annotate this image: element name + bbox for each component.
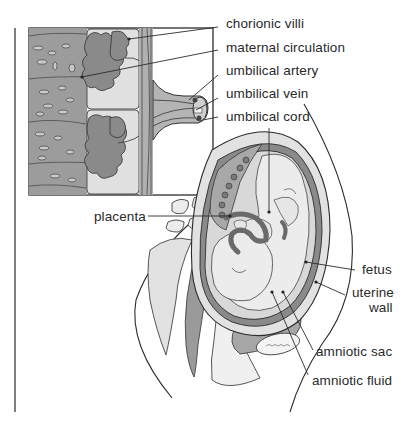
diagram-canvas: chorionic villi maternal circulation umb… (0, 0, 410, 425)
label-umbilical-cord: umbilical cord (226, 110, 310, 124)
label-chorionic-villi: chorionic villi (226, 17, 304, 31)
label-umbilical-vein: umbilical vein (226, 87, 308, 101)
label-uterine-wall-line2: wall (369, 301, 393, 315)
label-amniotic-fluid: amniotic fluid (312, 374, 392, 388)
label-amniotic-sac: amniotic sac (316, 345, 392, 359)
label-fetus: fetus (362, 263, 392, 277)
label-uterine-wall-line1: uterine (352, 286, 394, 300)
anatomy-illustration (0, 0, 410, 425)
label-placenta: placenta (94, 210, 146, 224)
placenta-inset (29, 28, 213, 195)
label-maternal-circulation: maternal circulation (226, 41, 345, 55)
label-umbilical-artery: umbilical artery (226, 64, 318, 78)
